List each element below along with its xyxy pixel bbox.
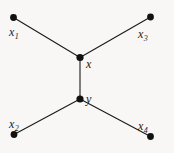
node-x1 (10, 14, 17, 21)
node-label-x4-subscript: 4 (144, 126, 148, 135)
graph-diagram: x1 x3 x y x2 x4 (0, 0, 174, 153)
node-x4 (147, 133, 154, 140)
node-label-y: y (86, 93, 91, 105)
node-label-x3: x3 (138, 28, 147, 40)
node-label-x2-base: x (9, 117, 14, 131)
edge-y-to-x2 (14, 99, 80, 135)
node-label-x1-base: x (9, 25, 14, 39)
node-label-x4-base: x (138, 119, 143, 133)
node-label-x4: x4 (138, 120, 147, 132)
node-label-x2-subscript: 2 (15, 124, 19, 133)
node-label-x2: x2 (9, 118, 18, 130)
node-label-x3-subscript: 3 (144, 34, 148, 43)
node-label-x-base: x (86, 57, 91, 71)
node-label-x: x (86, 58, 91, 70)
node-label-y-base: y (86, 92, 91, 106)
node-label-x1: x1 (9, 26, 18, 38)
node-group (10, 14, 154, 140)
node-y (76, 95, 83, 102)
edge-x1-to-x (14, 18, 81, 58)
node-x (76, 54, 83, 61)
edge-group (14, 17, 151, 137)
node-x3 (147, 14, 154, 21)
node-label-x3-base: x (138, 27, 143, 41)
node-label-x1-subscript: 1 (15, 32, 19, 41)
